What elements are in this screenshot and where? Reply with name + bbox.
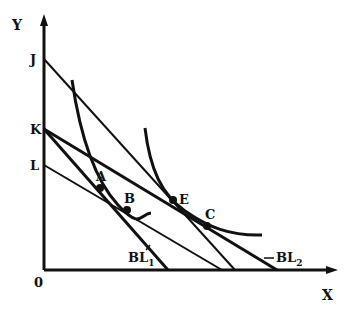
point-label-e: E xyxy=(179,192,189,207)
BL2-label: BL2 xyxy=(276,250,302,268)
y-axis-label: Y xyxy=(11,17,23,33)
indifference-curve-diagram: YX0JKLABECBL1BL2 xyxy=(0,0,354,311)
indifference-curve-ic2 xyxy=(145,128,262,235)
y-intercept-j: J xyxy=(29,52,36,67)
point-a xyxy=(96,184,104,192)
point-label-a: A xyxy=(95,169,107,184)
point-label-b: B xyxy=(124,191,135,206)
budget-line-bl2 xyxy=(44,129,277,270)
point-label-c: C xyxy=(205,207,215,222)
point-e xyxy=(169,196,177,204)
indifference-curve-ic1 xyxy=(72,80,151,219)
y-axis-arrow-icon xyxy=(40,14,48,26)
y-intercept-l: L xyxy=(30,158,39,173)
labels: YX0JKLABECBL1BL2 xyxy=(11,17,333,303)
x-axis-label: X xyxy=(322,287,333,303)
point-b xyxy=(123,206,131,214)
diagram-canvas: YX0JKLABECBL1BL2 xyxy=(0,0,354,311)
origin-label: 0 xyxy=(34,275,43,290)
point-c xyxy=(203,222,211,230)
indifference-curves xyxy=(72,80,262,235)
BL1-label: BL1 xyxy=(128,250,154,268)
budget-lines xyxy=(44,59,277,270)
x-axis-arrow-icon xyxy=(326,266,338,274)
y-intercept-k: K xyxy=(30,122,42,137)
